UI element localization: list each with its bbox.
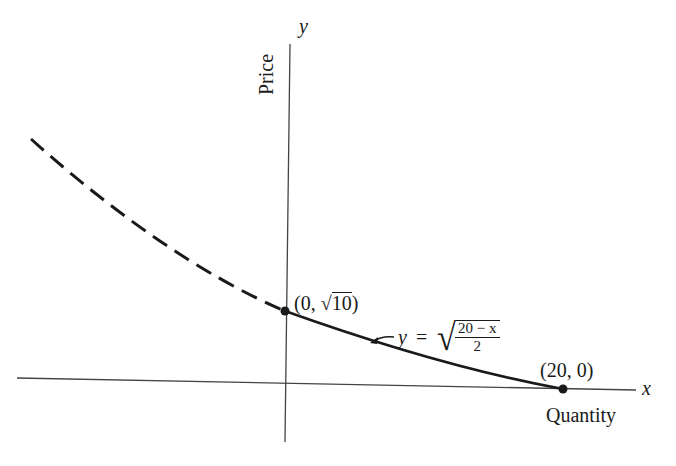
- graph-canvas: [0, 0, 676, 466]
- equation-equals: =: [416, 327, 427, 347]
- point-label-0-sqrt10: (0, √10): [294, 292, 358, 313]
- point-label-prefix: (0,: [294, 292, 321, 314]
- point-label-suffix: ): [352, 292, 359, 314]
- point-marker-0-sqrt10: [281, 307, 290, 316]
- dashed-extension-curve: [31, 139, 285, 311]
- equation-lhs: y: [398, 327, 407, 347]
- radical-icon: √: [321, 293, 332, 313]
- y-axis-title: Price: [256, 54, 276, 95]
- curve-equation: y = √ 20 − x 2: [398, 318, 500, 356]
- radicand: 10: [332, 292, 352, 313]
- fraction-numerator: 20 − x: [455, 321, 499, 338]
- y-axis: [285, 44, 290, 442]
- point-marker-20-0: [559, 385, 568, 394]
- point-label-20-0: (20, 0): [540, 360, 593, 380]
- sqrt-10: √10: [321, 292, 352, 313]
- equation-sqrt: √ 20 − x 2: [436, 318, 499, 356]
- x-axis-title: Quantity: [546, 405, 616, 425]
- x-axis-symbol: x: [642, 378, 651, 398]
- fraction: 20 − x 2: [455, 321, 499, 354]
- radicand-box: 20 − x 2: [455, 320, 499, 354]
- fraction-denominator: 2: [455, 338, 499, 354]
- y-axis-symbol: y: [299, 16, 308, 36]
- radical-icon: √: [437, 318, 456, 356]
